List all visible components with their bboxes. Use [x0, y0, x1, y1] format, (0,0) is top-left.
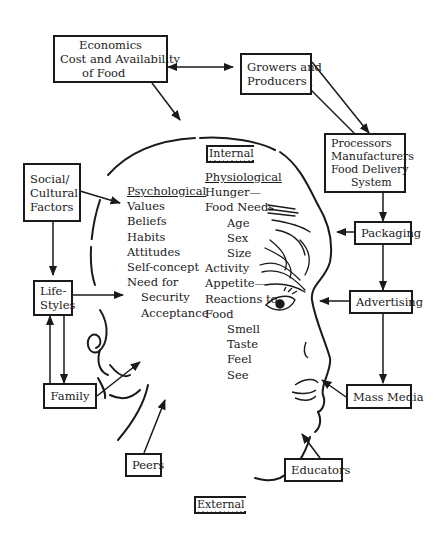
physio-activity: Activity [205, 261, 282, 276]
physio-reactions-to: Reactions to [205, 292, 282, 307]
economics-label-line2: Cost and Availability [60, 52, 161, 66]
external-label: External [196, 498, 246, 511]
physio-need-sex: Sex [205, 231, 282, 246]
mass-media-box: Mass Media [346, 384, 412, 409]
social-label: Social/ [30, 172, 74, 186]
psych-item-attitudes: Attitudes [127, 245, 208, 260]
nose-mouth-illustration [292, 342, 318, 400]
physio-sense-feel: Feel [205, 352, 282, 367]
system-label: System [331, 176, 399, 189]
processors-box: Processors Manufacturers Food Delivery S… [324, 133, 406, 193]
social-cultural-box: Social/ Cultural Factors [23, 163, 81, 222]
manufacturers-label: Manufacturers [331, 150, 399, 163]
psych-item-self-concept: Self-concept [127, 260, 208, 275]
internal-legend: Internal [206, 145, 254, 163]
economics-label-line3: of Food [60, 66, 161, 80]
economics-box: Economics Cost and Availability of Food [53, 35, 168, 83]
growers-producers-box: Growers and Producers [240, 53, 312, 95]
physio-appetite: Appetite— [205, 276, 282, 291]
factors-label: Factors [30, 200, 74, 214]
family-box: Family [43, 383, 97, 409]
economics-label: Economics [60, 38, 161, 52]
psych-item-need-for: Need for [127, 275, 208, 290]
educators-label: Educators [291, 463, 336, 477]
growers-label-line2: Producers [247, 74, 305, 88]
cultural-label: Cultural [30, 186, 74, 200]
physio-need-age: Age [205, 216, 282, 231]
peers-label: Peers [132, 458, 155, 472]
lifestyles-label-line2: Styles [40, 298, 66, 312]
educators-box: Educators [284, 458, 343, 482]
physio-need-size: Size [205, 246, 282, 261]
lifestyles-box: Life- Styles [33, 280, 73, 316]
psych-item-values: Values [127, 199, 208, 214]
physiological-heading: Physiological [205, 170, 282, 185]
psych-item-habits: Habits [127, 230, 208, 245]
physio-sense-taste: Taste [205, 337, 282, 352]
psychological-list: Psychological Values Beliefs Habits Atti… [127, 184, 208, 321]
advertising-box: Advertising [349, 290, 413, 314]
physio-sense-smell: Smell [205, 322, 282, 337]
internal-label: Internal [208, 147, 255, 160]
external-legend: External [194, 496, 246, 514]
physio-food: Food [205, 307, 282, 322]
advertising-label: Advertising [356, 295, 406, 309]
psych-item-beliefs: Beliefs [127, 214, 208, 229]
psych-subitem-security: Security [127, 290, 208, 305]
mass-media-label: Mass Media [353, 390, 405, 404]
psychological-heading: Psychological [127, 184, 208, 199]
packaging-box: Packaging [354, 221, 412, 245]
food-delivery-label: Food Delivery [331, 163, 399, 176]
physio-hunger: Hunger— [205, 185, 282, 200]
physiological-list: Physiological Hunger— Food Needs Age Sex… [205, 170, 282, 383]
psych-subitem-acceptance: Acceptance [127, 306, 208, 321]
processors-label: Processors [331, 137, 399, 150]
peers-box: Peers [125, 453, 162, 477]
lifestyles-label: Life- [40, 284, 66, 298]
growers-label: Growers and [247, 60, 305, 74]
physio-sense-see: See [205, 368, 282, 383]
physio-food-needs: Food Needs [205, 200, 282, 215]
family-label: Family [50, 389, 90, 403]
packaging-label: Packaging [361, 226, 405, 240]
